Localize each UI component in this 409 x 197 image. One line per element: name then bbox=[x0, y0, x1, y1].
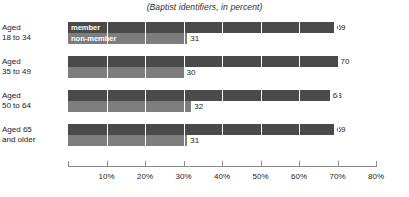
chart-title: (Baptist identifiers, in percent) bbox=[0, 2, 409, 12]
x-axis-tick-label: 10% bbox=[87, 172, 127, 181]
x-axis-tick bbox=[145, 161, 146, 167]
gridline bbox=[299, 22, 300, 166]
x-axis-tick bbox=[68, 161, 69, 167]
gridline bbox=[376, 22, 377, 166]
x-axis-tick-label: 60% bbox=[279, 172, 319, 181]
category-label-line: 35 to 49 bbox=[2, 67, 64, 77]
category-label-line: and older bbox=[2, 135, 64, 145]
gridline bbox=[338, 22, 339, 166]
category-label-line: Aged bbox=[2, 23, 64, 33]
x-axis-tick-label: 20% bbox=[125, 172, 165, 181]
bar-non-member bbox=[68, 67, 184, 78]
category-label-line: 50 to 64 bbox=[2, 101, 64, 111]
bar-member bbox=[68, 124, 334, 135]
category-label-line: 18 to 34 bbox=[2, 33, 64, 43]
bar-value-label: 70 bbox=[339, 56, 350, 67]
bar-value-label: 32 bbox=[192, 101, 203, 112]
x-axis-tick-label: 80% bbox=[356, 172, 396, 181]
category-label: Aged 65and older bbox=[2, 125, 64, 144]
x-axis-tick bbox=[299, 161, 300, 167]
bar-non-member bbox=[68, 101, 191, 112]
bar-member bbox=[68, 22, 334, 33]
x-axis-tick-label: 50% bbox=[241, 172, 281, 181]
category-label: Aged35 to 49 bbox=[2, 57, 64, 76]
x-axis-tick bbox=[261, 161, 262, 167]
x-axis-tick bbox=[376, 161, 377, 167]
x-axis-tick bbox=[338, 161, 339, 167]
gridline bbox=[107, 22, 108, 166]
legend-label-member: member bbox=[71, 22, 100, 33]
gridline bbox=[184, 22, 185, 166]
category-label-line: Aged 65 bbox=[2, 125, 64, 135]
x-axis-tick bbox=[107, 161, 108, 167]
category-label: Aged18 to 34 bbox=[2, 23, 64, 42]
bar-value-label: 31 bbox=[188, 135, 199, 146]
gridline bbox=[222, 22, 223, 166]
x-axis-tick bbox=[222, 161, 223, 167]
category-label-line: Aged bbox=[2, 91, 64, 101]
bar-value-label: 68 bbox=[331, 90, 342, 101]
gridline bbox=[261, 22, 262, 166]
bar-value-label: 31 bbox=[188, 33, 199, 44]
plot-area: member69non-member31703068326931 bbox=[68, 22, 376, 166]
category-label-line: Aged bbox=[2, 57, 64, 67]
bar-value-label: 69 bbox=[335, 22, 346, 33]
x-axis-tick-label: 30% bbox=[164, 172, 204, 181]
bar-non-member bbox=[68, 135, 187, 146]
bar-value-label: 30 bbox=[185, 67, 196, 78]
gridline bbox=[145, 22, 146, 166]
x-axis-tick bbox=[184, 161, 185, 167]
x-axis-tick-label: 40% bbox=[202, 172, 242, 181]
legend-label-non-member: non-member bbox=[71, 33, 116, 44]
bar-chart: (Baptist identifiers, in percent) member… bbox=[0, 0, 409, 197]
bar-value-label: 69 bbox=[335, 124, 346, 135]
category-label: Aged50 to 64 bbox=[2, 91, 64, 110]
x-axis-tick-label: 70% bbox=[318, 172, 358, 181]
bar-member bbox=[68, 56, 338, 67]
